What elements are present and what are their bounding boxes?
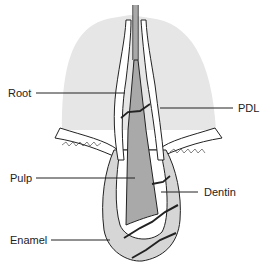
- tooth-illustration: [0, 0, 267, 262]
- tooth-diagram: Root PDL Pulp Dentin Enamel: [0, 0, 267, 262]
- pdl-label: PDL: [238, 102, 259, 114]
- enamel-label: Enamel: [10, 234, 47, 246]
- pulp-label: Pulp: [10, 172, 32, 184]
- root-label: Root: [8, 87, 31, 99]
- dentin-label: Dentin: [204, 186, 236, 198]
